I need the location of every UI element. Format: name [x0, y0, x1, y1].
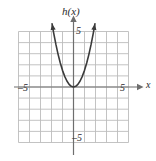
x-tick-label-negative: –5	[18, 83, 28, 93]
function-label: h(x)	[62, 6, 80, 17]
x-axis-label: x	[146, 80, 150, 90]
x-tick-label-positive: 5	[120, 83, 125, 93]
y-tick-label-negative: –5	[72, 133, 82, 143]
graph-figure: h(x) x –5 5 5 –5	[0, 0, 156, 161]
y-tick-label-positive: 5	[76, 26, 81, 36]
